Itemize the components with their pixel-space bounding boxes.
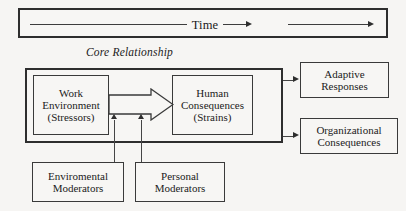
personal-moderator-connector-head <box>138 114 144 119</box>
node-adaptive-responses-label: Adaptive Responses <box>301 68 388 93</box>
adaptive-responses-connector-head <box>293 76 299 82</box>
personal-moderator-connector-line <box>141 120 142 162</box>
core-relationship-caption: Core Relationship <box>86 46 173 58</box>
node-human-consequences-label: Human Consequences (Strains) <box>173 87 252 124</box>
node-adaptive-responses: Adaptive Responses <box>300 62 389 98</box>
environmental-moderator-connector-line <box>114 120 115 162</box>
node-personal-moderators-label: Personal Moderators <box>136 170 224 195</box>
time-label: Time <box>20 10 390 40</box>
diagram-canvas: Time Core Relationship Work Environment … <box>0 0 406 211</box>
node-organizational-consequences-label: Organizational Consequences <box>301 124 397 149</box>
time-band-box: Time <box>18 8 388 38</box>
node-human-consequences: Human Consequences (Strains) <box>172 75 253 135</box>
time-label-text: Time <box>187 18 224 32</box>
organizational-consequences-connector-head <box>293 132 299 138</box>
node-work-environment-label: Work Environment (Stressors) <box>34 87 108 124</box>
node-personal-moderators: Personal Moderators <box>135 162 225 202</box>
node-environmental-moderators-label: Enviromental Moderators <box>33 170 123 195</box>
node-environmental-moderators: Enviromental Moderators <box>32 162 124 202</box>
node-organizational-consequences: Organizational Consequences <box>300 118 398 154</box>
environmental-moderator-connector-head <box>111 114 117 119</box>
node-work-environment: Work Environment (Stressors) <box>33 75 109 135</box>
